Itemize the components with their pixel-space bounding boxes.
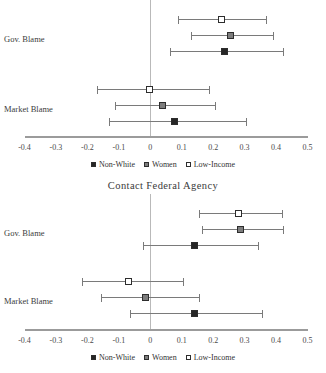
ci-cap-lower [82,278,83,286]
legend-label: Non-White [99,353,135,362]
estimate-row-nonwhite [0,240,326,251]
x-axis-line-top [25,136,308,138]
estimate-row-lowincome [0,14,326,25]
estimate-row-lowincome [0,276,326,287]
legend-swatch-icon [91,162,97,168]
legend-item-nonwhite: Non-White [91,353,135,362]
x-axis-tick-label: 0.5 [293,143,323,152]
x-axis-tick-label: -0.4 [10,336,40,345]
point-estimate-marker-nonwhite [191,242,198,249]
confidence-interval-bar [101,297,199,298]
point-estimate-marker-nonwhite [171,118,178,125]
x-axis-tick-label: 0.4 [261,336,291,345]
x-axis-tick-label: -0.2 [72,143,102,152]
ci-cap-upper [209,86,210,94]
x-axis-tick-label: -0.4 [10,143,40,152]
panel-title-bottom: Contact Federal Agency [0,180,326,191]
ci-cap-upper [258,242,259,250]
estimate-row-women [0,292,326,303]
ci-cap-lower [130,310,131,318]
ci-cap-lower [101,294,102,302]
estimate-row-women [0,30,326,41]
chart-legend: Non-WhiteWomenLow-Income [0,160,326,169]
legend-swatch-icon [144,162,150,168]
confidence-interval-bar [82,281,183,282]
x-axis-tick-label: 0.3 [230,336,260,345]
confidence-interval-bar [97,89,209,90]
legend-item-nonwhite: Non-White [91,160,135,169]
x-axis-tick-label: 0 [135,143,165,152]
legend-swatch-icon [91,355,97,361]
chart-panel-top: Gov. BlameMarket Blame-0.4-0.3-0.2-0.100… [0,0,326,176]
x-axis-tick-label: 0.2 [198,143,228,152]
x-axis-line-bottom [25,329,308,331]
legend-label: Low-Income [194,160,235,169]
ci-cap-upper [199,294,200,302]
ci-cap-lower [178,16,179,24]
ci-cap-upper [266,16,267,24]
point-estimate-marker-lowincome [146,86,153,93]
ci-cap-upper [215,102,216,110]
legend-label: Non-White [99,160,135,169]
ci-cap-upper [282,210,283,218]
ci-cap-upper [283,226,284,234]
ci-cap-upper [262,310,263,318]
ci-cap-upper [283,48,284,56]
ci-cap-lower [202,226,203,234]
estimate-row-lowincome [0,84,326,95]
ci-cap-upper [246,118,247,126]
x-axis-tick-label: 0.1 [167,143,197,152]
x-axis-tick-label: -0.3 [41,336,71,345]
x-axis-tick-label: 0.1 [167,336,197,345]
estimate-row-women [0,224,326,235]
estimate-row-lowincome [0,208,326,219]
confidence-interval-bar [143,245,258,246]
estimate-row-nonwhite [0,308,326,319]
legend-swatch-icon [186,355,192,361]
ci-cap-lower [115,102,116,110]
point-estimate-marker-nonwhite [221,48,228,55]
x-axis-tick-label: -0.2 [72,336,102,345]
legend-label: Women [152,160,177,169]
x-axis-tick-label: 0.4 [261,143,291,152]
chart-legend: Non-WhiteWomenLow-Income [0,353,326,362]
x-axis-tick-label: -0.3 [41,143,71,152]
point-estimate-marker-lowincome [125,278,132,285]
legend-swatch-icon [144,355,150,361]
legend-item-lowincome: Low-Income [186,160,235,169]
x-axis-tick-label: 0.3 [230,143,260,152]
estimate-row-women [0,100,326,111]
ci-cap-lower [191,32,192,40]
estimate-row-nonwhite [0,46,326,57]
point-estimate-marker-women [142,294,149,301]
legend-label: Women [152,353,177,362]
legend-label: Low-Income [194,353,235,362]
point-estimate-marker-lowincome [218,16,225,23]
chart-panel-bottom: Contact Federal Agency Gov. BlameMarket … [0,176,326,373]
legend-item-women: Women [144,160,177,169]
ci-cap-upper [183,278,184,286]
ci-cap-lower [143,242,144,250]
estimate-row-nonwhite [0,116,326,127]
legend-item-lowincome: Low-Income [186,353,235,362]
point-estimate-marker-women [159,102,166,109]
legend-item-women: Women [144,353,177,362]
point-estimate-marker-women [237,226,244,233]
ci-cap-lower [170,48,171,56]
x-axis-tick-label: -0.1 [104,336,134,345]
x-axis-tick-label: 0 [135,336,165,345]
legend-swatch-icon [186,162,192,168]
ci-cap-lower [97,86,98,94]
point-estimate-marker-women [227,32,234,39]
ci-cap-lower [109,118,110,126]
ci-cap-lower [199,210,200,218]
point-estimate-marker-lowincome [235,210,242,217]
x-axis-tick-label: 0.2 [198,336,228,345]
x-axis-tick-label: 0.5 [293,336,323,345]
point-estimate-marker-nonwhite [191,310,198,317]
x-axis-tick-label: -0.1 [104,143,134,152]
ci-cap-upper [273,32,274,40]
